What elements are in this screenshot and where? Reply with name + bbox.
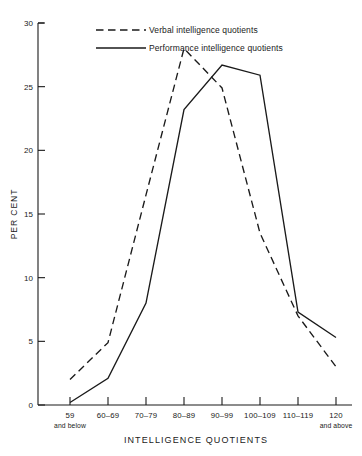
data-series-group [70, 48, 336, 402]
line-chart-svg: Verbal intelligence quotients Performanc… [0, 0, 362, 456]
x-tick-label: 60–69 [97, 411, 120, 420]
x-tick-label: 110–119 [283, 411, 314, 420]
series-line-performance [70, 65, 336, 402]
y-tick-label: 10 [24, 274, 33, 283]
x-tick-label: 59 [65, 411, 74, 420]
x-axis-title: INTELLIGENCE QUOTIENTS [124, 435, 268, 445]
y-tick-label: 5 [29, 337, 34, 346]
legend-label-verbal: Verbal intelligence quotients [149, 25, 258, 35]
legend-label-performance: Performance intelligence quotients [149, 43, 283, 53]
x-tick-label: 90–99 [211, 411, 234, 420]
y-axis-title: PER CENT [9, 189, 19, 240]
y-tick-label: 20 [24, 146, 33, 155]
chart-axes [38, 23, 352, 405]
x-tick-label: 70–79 [135, 411, 158, 420]
y-tick-label: 0 [29, 401, 34, 410]
y-tick-label: 15 [24, 210, 33, 219]
x-tick-label: 100–109 [244, 411, 276, 420]
chart-legend: Verbal intelligence quotients Performanc… [96, 25, 283, 53]
y-tick-label: 30 [24, 19, 33, 28]
series-line-verbal [70, 48, 336, 379]
x-tick-sublabel: and below [54, 422, 86, 429]
x-tick-group: 59and below60–6970–7980–8990–99100–10911… [54, 397, 352, 429]
x-tick-label: 80–89 [173, 411, 196, 420]
y-tick-label: 25 [24, 83, 33, 92]
legend-item-verbal: Verbal intelligence quotients [96, 25, 258, 35]
x-tick-label: 120 [329, 411, 343, 420]
y-tick-group: 051015202530 [24, 19, 45, 410]
x-tick-sublabel: and above [320, 422, 353, 429]
legend-item-performance: Performance intelligence quotients [96, 43, 283, 53]
